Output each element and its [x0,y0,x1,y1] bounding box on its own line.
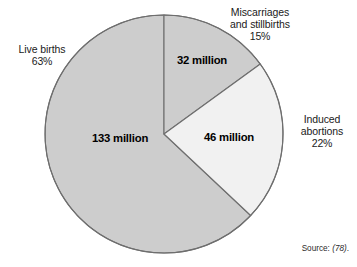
slice-label-miscarriages: Miscarriages and stillbirths 15% [204,6,316,43]
slice-label-induced-abortions-line1: Induced [289,113,355,125]
slice-label-live-births-line1: Live births [2,43,82,55]
slice-value-induced-abortions: 46 million [197,131,261,143]
slice-label-miscarriages-line2: and stillbirths [204,18,316,30]
source-note: Source: (78). [237,244,349,253]
source-prefix: Source: [302,244,330,253]
pie-chart-figure: Miscarriages and stillbirths 15% Live bi… [0,0,357,267]
slice-label-live-births-percent: 63% [2,55,82,67]
slice-label-induced-abortions-percent: 22% [289,137,355,149]
slice-label-induced-abortions-line2: abortions [289,125,355,137]
slice-value-live-births: 133 million [83,132,157,144]
source-reference: (78) [332,244,347,253]
slice-label-live-births: Live births 63% [2,43,82,67]
slice-label-induced-abortions: Induced abortions 22% [289,113,355,150]
slice-label-miscarriages-line1: Miscarriages [204,6,316,18]
slice-label-miscarriages-percent: 15% [204,30,316,42]
slice-value-miscarriages: 32 million [170,54,234,66]
source-suffix: . [347,244,349,253]
